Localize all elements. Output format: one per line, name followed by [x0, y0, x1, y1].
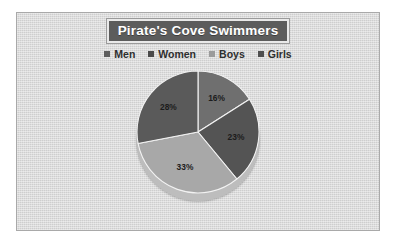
legend-item-women[interactable]: Women [148, 49, 196, 60]
pie-chart-area: 16%23%33%28% [17, 68, 379, 230]
legend-item-label: Women [158, 49, 196, 60]
legend-swatch-icon [148, 51, 154, 57]
chart-legend: MenWomenBoysGirls [17, 49, 379, 60]
pie-slice-label-girls: 28% [160, 102, 177, 112]
chart-title-container: Pirate's Cove Swimmers [17, 19, 379, 43]
legend-item-men[interactable]: Men [104, 49, 135, 60]
pie-chart: 16%23%33%28% [136, 70, 260, 194]
pie-slice-label-men: 16% [208, 93, 225, 103]
pie-svg: 16%23%33%28% [136, 70, 260, 194]
legend-item-label: Men [114, 49, 135, 60]
page-title: Pirate's Cove Swimmers [107, 19, 290, 43]
legend-swatch-icon [209, 51, 215, 57]
pie-stack: 16%23%33%28% [136, 70, 260, 200]
pie-slice-label-boys: 33% [177, 162, 194, 172]
chart-frame: Pirate's Cove Swimmers MenWomenBoysGirls… [16, 12, 380, 231]
legend-swatch-icon [258, 51, 264, 57]
legend-swatch-icon [104, 51, 110, 57]
legend-item-boys[interactable]: Boys [209, 49, 245, 60]
chart-page: Pirate's Cove Swimmers MenWomenBoysGirls… [0, 0, 397, 245]
legend-item-label: Boys [219, 49, 245, 60]
pie-slice-label-women: 23% [228, 132, 245, 142]
legend-item-girls[interactable]: Girls [258, 49, 292, 60]
legend-item-label: Girls [268, 49, 292, 60]
